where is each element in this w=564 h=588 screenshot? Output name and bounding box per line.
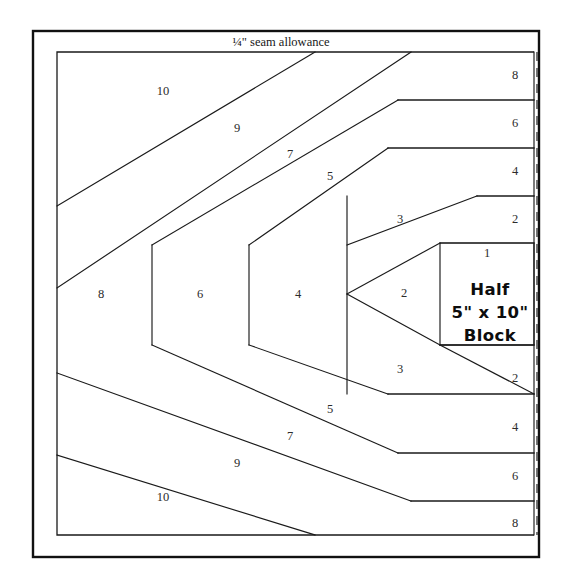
piece-number-10-lower: 10	[157, 490, 170, 504]
piece-number-10-upper: 10	[157, 84, 170, 98]
piece-number-2-right-upper: 2	[512, 212, 518, 226]
piece-number-4-right-upper: 4	[512, 164, 519, 178]
piece-number-9-lower: 9	[234, 456, 240, 470]
piece-number-6-right-lower: 6	[512, 469, 518, 483]
piece-number-1: 1	[484, 246, 490, 260]
seam-allowance-label: ¼" seam allowance	[232, 35, 330, 49]
piece-number-2-right-lower: 2	[512, 371, 518, 385]
piece-number-5-lower: 5	[327, 402, 333, 416]
piece-number-2-center: 2	[401, 286, 407, 300]
piece-number-9-upper: 9	[234, 121, 240, 135]
piece-number-8-center: 8	[98, 287, 104, 301]
block-label-line-2: 5" x 10"	[452, 303, 529, 322]
piece-number-6-center: 6	[197, 287, 203, 301]
piece-number-6-right-upper: 6	[512, 116, 518, 130]
piece-number-3-lower: 3	[397, 362, 403, 376]
pattern-diagram: ¼" seam allowance 10 9 7 5 3 1 8 6 4 2 8…	[0, 0, 564, 588]
block-label-line-3: Block	[464, 326, 517, 345]
piece-number-8-right-lower: 8	[512, 516, 518, 530]
piece-number-3-upper: 3	[397, 212, 403, 226]
block-label-line-1: Half	[470, 280, 510, 299]
piece-number-4-right-lower: 4	[512, 420, 519, 434]
piece-number-7-upper: 7	[287, 147, 293, 161]
piece-number-8-right-upper: 8	[512, 68, 518, 82]
piece-number-7-lower: 7	[287, 429, 293, 443]
pattern-page: ¼" seam allowance 10 9 7 5 3 1 8 6 4 2 8…	[0, 0, 564, 588]
piece-number-5-upper: 5	[327, 169, 333, 183]
piece-number-4-center: 4	[295, 287, 302, 301]
